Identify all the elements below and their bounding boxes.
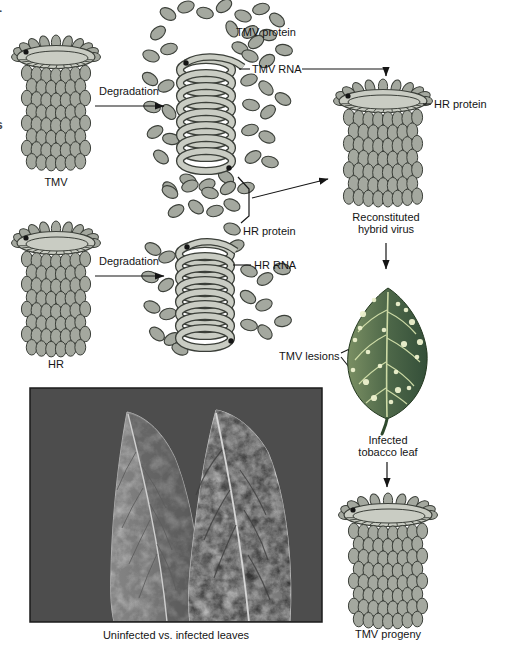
hr-virion-illustration xyxy=(12,221,101,357)
figure-artwork xyxy=(0,0,506,655)
tmv-virion-illustration xyxy=(12,35,101,171)
infected-leaf-caption: Infected tobacco leaf xyxy=(338,434,438,458)
infected-leaf-illustration xyxy=(348,288,428,434)
tmv-rna-to-hybrid-arrow xyxy=(302,69,386,76)
hybrid-virus-caption: Reconstituted hybrid virus xyxy=(336,211,436,235)
page-edge-artifact-bottom: s xyxy=(0,118,3,132)
leaf-stem xyxy=(382,419,387,434)
hr-protein-label: HR protein xyxy=(243,225,296,237)
infected-caption-line1: Infected xyxy=(338,434,438,446)
combine-arrow xyxy=(252,179,328,198)
tmv-rna-coil xyxy=(180,57,243,171)
photo-caption: Uninfected vs. infected leaves xyxy=(46,629,306,641)
hybrid-caption-line2: hybrid virus xyxy=(336,223,436,235)
tmv-virion-label: TMV xyxy=(26,176,86,188)
hybrid-caption-line1: Reconstituted xyxy=(336,211,436,223)
progeny-virion-illustration xyxy=(339,493,438,629)
figure-canvas: TMV protein TMV RNA Degradation TMV HR p… xyxy=(0,0,506,655)
tmv-rna-label: TMV RNA xyxy=(252,63,302,75)
hr-rna-coil xyxy=(179,242,236,348)
degradation-label-bottom: Degradation xyxy=(99,255,159,267)
leaf-photo xyxy=(30,388,322,622)
tmv-progeny-label: TMV progeny xyxy=(336,628,440,640)
page-edge-artifact-top: - xyxy=(0,4,2,18)
infected-caption-line2: tobacco leaf xyxy=(338,446,438,458)
hr-rna-label: HR RNA xyxy=(254,259,296,271)
tmv-protein-label: TMV protein xyxy=(236,26,296,38)
hr-virion-label: HR xyxy=(26,358,86,370)
hr-protein-coat-label: HR protein xyxy=(434,98,487,110)
degradation-label-top: Degradation xyxy=(99,85,159,97)
tmv-lesions-label: TMV lesions xyxy=(279,350,340,362)
reconstituted-virion-illustration xyxy=(334,79,433,207)
